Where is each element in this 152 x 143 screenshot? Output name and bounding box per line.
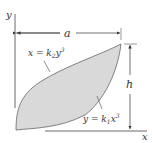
dimension-h-label: h — [126, 78, 133, 91]
dimension-a-label: a — [64, 27, 71, 40]
lower-curve-label: y = k1x3 — [82, 112, 120, 125]
y-axis-label: y — [5, 9, 12, 20]
upper-curve-label: x = k2y3 — [28, 46, 65, 59]
x-axis-label: x — [142, 131, 148, 142]
upper-curve-leader — [44, 61, 50, 72]
area-diagram: a h y x x = k2y3 y = k1x3 — [0, 0, 152, 143]
